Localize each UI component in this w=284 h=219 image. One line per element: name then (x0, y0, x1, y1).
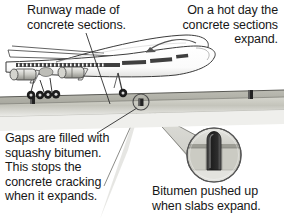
caption-gaps-filled: Gaps are filled with squashy bitumen. Th… (5, 131, 109, 204)
magnifier-detail (186, 128, 246, 184)
caption-runway-sections: Runway made of concrete sections. (27, 3, 126, 32)
engine-outboard (58, 67, 84, 78)
engine-inboard (10, 69, 36, 80)
figure-canvas: Runway made of concrete sections. On a h… (0, 0, 284, 219)
caption-hot-day: On a hot day the concrete sections expan… (182, 3, 278, 47)
caption-bitumen-pushed: Bitumen pushed up when slabs expand. (152, 184, 261, 213)
